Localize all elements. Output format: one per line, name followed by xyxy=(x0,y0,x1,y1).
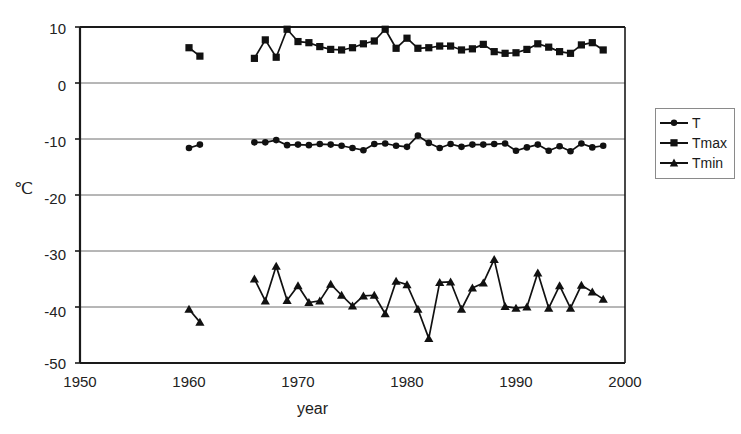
series-t xyxy=(186,132,607,154)
legend-item-tmin[interactable]: Tmin xyxy=(660,153,727,173)
circle-marker-icon xyxy=(660,116,688,130)
series-tmax xyxy=(185,26,606,62)
triangle-marker-icon xyxy=(660,156,688,170)
legend-item-t[interactable]: T xyxy=(660,113,727,133)
square-marker-icon xyxy=(660,136,688,150)
legend-item-tmax[interactable]: Tmax xyxy=(660,133,727,153)
legend-label-t: T xyxy=(692,116,701,130)
legend-label-tmin: Tmin xyxy=(692,156,723,170)
series-tmin xyxy=(184,255,607,342)
plot-area xyxy=(0,0,741,434)
legend-label-tmax: Tmax xyxy=(692,136,727,150)
chart-legend: T Tmax Tmin xyxy=(655,108,735,179)
chart-figure: ℃ 10 0 -10 -20 -30 -40 -50 1950 1960 197… xyxy=(0,0,741,434)
